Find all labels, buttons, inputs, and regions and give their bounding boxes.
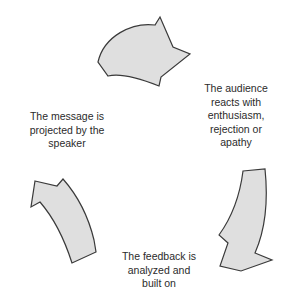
curved-arrow-left-up-icon [31,179,96,263]
stage-label-feedback: The feedback is analyzed and built on [103,250,215,291]
curved-arrow-right-down-icon [219,169,272,271]
curved-arrow-top-right-icon [98,17,190,86]
stage-label-message: The message is projected by the speaker [6,110,128,151]
stage-label-audience: The audience reacts with enthusiasm, rej… [192,82,280,150]
communication-cycle-diagram: The audience reacts with enthusiasm, rej… [0,0,282,304]
